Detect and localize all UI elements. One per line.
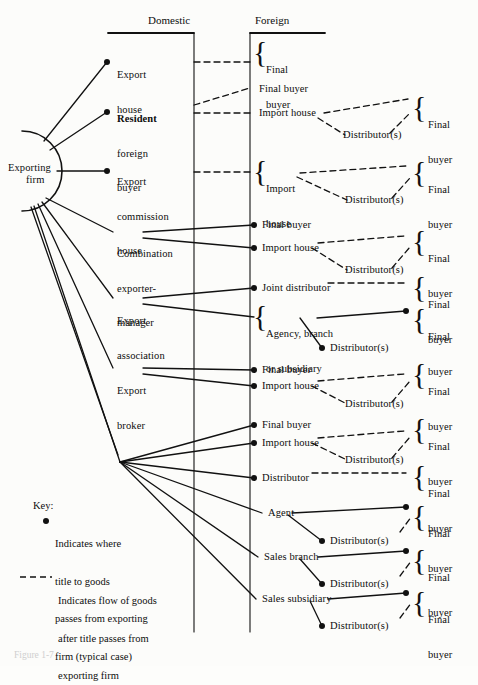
brace-icon: { [412,587,426,617]
foreign-sales-branch[interactable]: Sales branch [264,551,319,563]
node-line: Final [428,253,452,265]
foreign-final-buyer-5[interactable]: Final buyer [262,419,311,431]
node-export-broker[interactable]: Export broker [117,362,146,454]
final-buyer-r11[interactable]: Final buyer [428,591,452,683]
node-line: Resident [117,113,157,125]
node-line: Export [117,385,146,397]
header-domestic: Domestic [148,14,190,26]
header-foreign: Foreign [255,14,289,26]
node-line: Export [117,69,146,81]
foreign-distributor[interactable]: Distributor [262,472,309,484]
node-line: buyer [428,219,452,231]
foreign-distributor-s-1[interactable]: Distributor(s) [343,129,402,141]
brace-icon: { [412,304,426,334]
key-title: Key: [33,500,53,513]
exporter-radial-links [31,62,120,462]
foreign-distributor-s-3[interactable]: Distributor(s) [345,264,404,276]
node-line: Combination [117,248,173,260]
node-line: Final [428,614,452,626]
exporting-firm-label-line1: Exporting [8,162,51,174]
node-line: Final [428,184,452,196]
brace-icon: { [412,92,426,122]
foreign-distributor-s-9[interactable]: Distributor(s) [330,620,389,632]
brace-icon: { [412,272,426,302]
foreign-final-buyer-4[interactable]: Final buyer [262,364,311,376]
foreign-distributor-s-6[interactable]: Distributor(s) [345,454,404,466]
key-line: Indicates where [55,538,148,551]
node-line: Final [428,488,452,500]
foreign-distributor-s-5[interactable]: Distributor(s) [345,398,404,410]
key-goods-flow-entry: Indicates flow of goods after title pass… [58,570,157,685]
brace-icon: { [412,226,426,256]
foreign-distributor-s-2[interactable]: Distributor(s) [345,194,404,206]
foreign-import-house-2[interactable]: Import house [266,160,295,252]
node-line: association [117,350,165,362]
foreign-sales-subsidiary[interactable]: Sales subsidiary [262,593,332,605]
node-line: Final [428,331,452,343]
node-line: Agency, branch [266,328,333,340]
foreign-import-house-5[interactable]: Import house [262,437,319,449]
brace-icon: { [412,414,426,444]
brace-icon: { [412,359,426,389]
brace-icon: { [412,461,426,491]
brace-icon: { [412,501,426,531]
exporting-firm-label-line2: firm [26,174,44,186]
foreign-import-house-4[interactable]: Import house [262,380,319,392]
foreign-agent[interactable]: Agent [268,507,294,519]
node-line: buyer [428,649,452,661]
node-line: Export [117,315,165,327]
figure-caption: Figure 1-7 [14,650,54,660]
foreign-distributor-s-4[interactable]: Distributor(s) [330,342,389,354]
node-line: Import [266,183,295,195]
key-line: after title passes from [58,633,157,646]
foreign-distributor-s-7[interactable]: Distributor(s) [330,535,389,547]
brace-icon: { [412,157,426,187]
foreign-distributor-s-8[interactable]: Distributor(s) [330,578,389,590]
key-line: exporting firm [58,670,157,683]
node-line: Final [428,119,452,131]
foreign-final-buyer-2[interactable]: Final buyer [259,83,308,95]
node-line: Final [428,386,452,398]
node-line: Final [266,64,290,76]
foreign-final-buyer-3[interactable]: Final buyer [262,219,311,231]
node-line: Final [428,441,452,453]
node-line: Final [428,572,452,584]
node-line: Final [428,528,452,540]
key-line: Indicates flow of goods [58,595,157,608]
node-line: Export [117,176,169,188]
node-line: broker [117,420,146,432]
foreign-joint-distributor[interactable]: Joint distributor [262,282,331,294]
foreign-import-house-1[interactable]: Import house [259,107,316,119]
foreign-import-house-3[interactable]: Import house [262,242,319,254]
brace-icon: { [412,545,426,575]
node-line: commission [117,211,169,223]
